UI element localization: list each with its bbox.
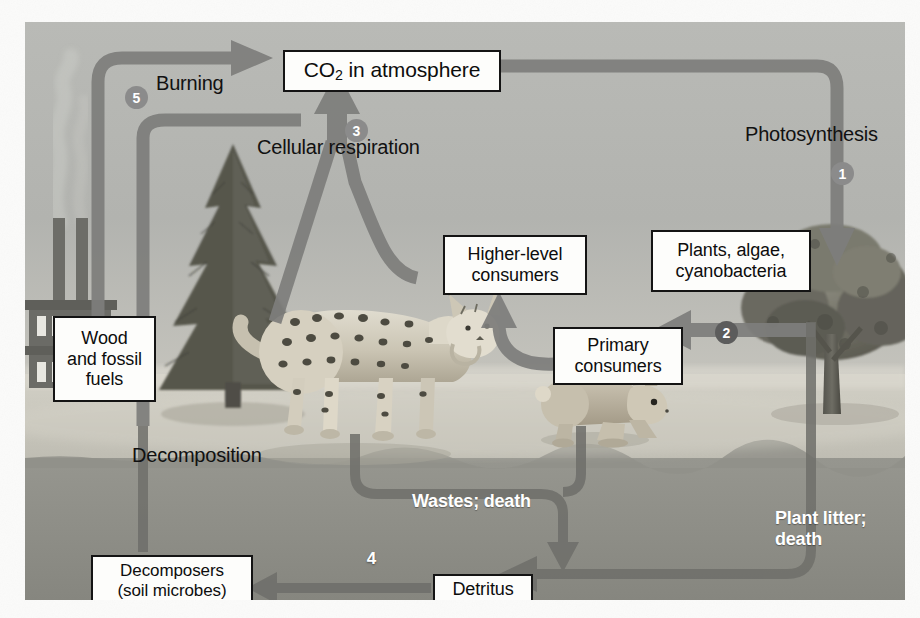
label-box-decomposers[interactable]: Decomposers(soil microbes)	[91, 555, 253, 600]
step-badge-1[interactable]: 1	[831, 162, 854, 185]
label-plant-litter-line2: death	[775, 529, 822, 549]
label-text-primary-consumers: Primaryconsumers	[574, 335, 661, 376]
scene-and-arrows	[25, 22, 905, 600]
label-box-primary-consumers[interactable]: Primaryconsumers	[553, 327, 683, 385]
step-badge-3[interactable]: 3	[345, 119, 368, 142]
step-badge-4[interactable]: 4	[360, 547, 383, 570]
label-plant-litter-line1: Plant litter;	[775, 508, 866, 528]
label-text-higher-level-consumers: Higher-levelconsumers	[468, 244, 563, 285]
step-badge-5[interactable]: 5	[125, 86, 148, 109]
label-plant-litter-death: Plant litter;death	[775, 508, 885, 550]
step-badge-2[interactable]: 2	[715, 321, 738, 344]
label-box-plants-algae-cyanobacteria[interactable]: Plants, algae,cyanobacteria	[651, 230, 811, 292]
label-decomposition: Decomposition	[132, 444, 262, 467]
label-text-detritus: Detritus	[452, 579, 513, 600]
label-box-co2[interactable]: CO2 in atmosphere	[283, 50, 501, 92]
label-cellular-respiration: Cellular respiration	[257, 136, 420, 159]
label-text-wood-and-fossil-fuels: Woodand fossilfuels	[67, 328, 142, 390]
label-box-wood-and-fossil-fuels[interactable]: Woodand fossilfuels	[53, 316, 156, 402]
diagram-panel: CO2 in atmosphere Higher-levelconsumers …	[25, 22, 905, 600]
label-photosynthesis: Photosynthesis	[745, 123, 878, 146]
label-text-co2: CO2 in atmosphere	[304, 58, 481, 83]
label-wastes-death: Wastes; death	[412, 491, 531, 512]
label-box-higher-level-consumers[interactable]: Higher-levelconsumers	[443, 235, 587, 295]
label-text-decomposers: Decomposers(soil microbes)	[117, 561, 226, 600]
carbon-cycle-diagram: CO2 in atmosphere Higher-levelconsumers …	[0, 0, 920, 618]
label-box-detritus[interactable]: Detritus	[433, 574, 533, 600]
label-text-plants-algae-cyanobacteria: Plants, algae,cyanobacteria	[676, 240, 787, 281]
label-burning: Burning	[156, 72, 224, 95]
